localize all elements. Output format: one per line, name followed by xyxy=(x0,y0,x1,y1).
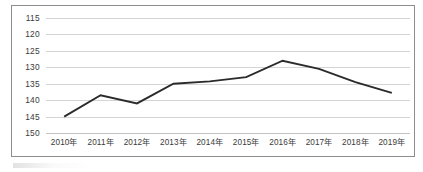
x-axis-tick-label: 2012年 xyxy=(124,137,151,147)
y-axis-tick-label: 120 xyxy=(25,29,40,39)
x-axis-tick-label: 2018年 xyxy=(342,137,369,147)
x-axis-tick-label: 2014年 xyxy=(196,137,223,147)
x-axis-tick-label: 2017年 xyxy=(306,137,333,147)
data-series-group xyxy=(64,61,392,117)
x-axis-tick-label: 2011年 xyxy=(88,137,114,147)
x-axis-tick-label: 2019年 xyxy=(378,137,405,147)
y-axis-tick-label: 125 xyxy=(25,46,40,56)
y-axis-tick-labels: 115120125130135140145150 xyxy=(25,13,40,138)
y-axis-tick-label: 150 xyxy=(25,128,40,138)
x-axis-tick-labels: 2010年2011年2012年2013年2014年2015年2016年2017年… xyxy=(51,137,405,147)
y-axis-tick-label: 115 xyxy=(26,13,40,23)
line-chart: 115120125130135140145150 2010年2011年2012年… xyxy=(0,0,423,172)
x-axis-tick-label: 2013年 xyxy=(160,137,187,147)
y-axis-tick-label: 145 xyxy=(25,112,40,122)
series-line xyxy=(64,61,392,117)
gridlines-group xyxy=(46,19,410,134)
x-axis-tick-label: 2015年 xyxy=(233,137,260,147)
x-axis-tick-label: 2010年 xyxy=(51,137,78,147)
y-axis-tick-label: 130 xyxy=(25,62,40,72)
y-axis-tick-label: 140 xyxy=(25,95,40,105)
y-axis-tick-label: 135 xyxy=(25,79,40,89)
x-axis-tick-label: 2016年 xyxy=(269,137,296,147)
